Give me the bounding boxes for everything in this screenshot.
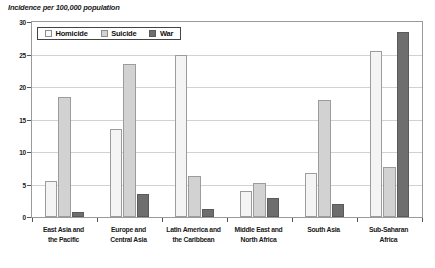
bar-war[interactable]: [202, 209, 215, 217]
x-axis-label-line: the Pacific: [31, 235, 96, 245]
x-axis-label-line: the Caribbean: [161, 235, 226, 245]
bar-homicide[interactable]: [370, 51, 383, 217]
x-axis-label-line: South Asia: [291, 225, 356, 235]
legend-swatch-suicide-icon: [101, 30, 108, 37]
bar-suicide[interactable]: [123, 64, 136, 217]
x-axis-category-label: East Asia andthe Pacific: [31, 225, 96, 244]
x-axis-tick-mark: [97, 218, 98, 222]
bar-war[interactable]: [72, 212, 85, 217]
bar-group: [110, 22, 150, 217]
x-axis-label-line: Central Asia: [96, 235, 161, 245]
x-axis-label-line: Europe and: [96, 225, 161, 235]
x-axis-tick-mark: [162, 218, 163, 222]
bar-war[interactable]: [397, 32, 410, 217]
bar-war[interactable]: [267, 198, 280, 218]
bar-war[interactable]: [137, 194, 150, 217]
bar-homicide[interactable]: [240, 191, 253, 217]
bar-suicide[interactable]: [318, 100, 331, 217]
y-axis-tick-label: 15: [19, 116, 26, 123]
bar-suicide[interactable]: [253, 183, 266, 217]
legend-label: Homicide: [56, 29, 88, 38]
x-axis-category-label: Europe andCentral Asia: [96, 225, 161, 244]
bar-homicide[interactable]: [305, 173, 318, 217]
bar-suicide[interactable]: [188, 176, 201, 217]
bar-group: [240, 22, 280, 217]
bar-group: [175, 22, 215, 217]
legend-label: Suicide: [111, 29, 136, 38]
legend-item-homicide[interactable]: Homicide: [45, 29, 88, 38]
x-axis-tick-mark: [227, 218, 228, 222]
bar-homicide[interactable]: [110, 129, 123, 217]
bar-war[interactable]: [332, 204, 345, 217]
y-axis-tick-label: 20: [19, 84, 26, 91]
legend-item-war[interactable]: War: [149, 29, 173, 38]
chart-title: Incidence per 100,000 population: [8, 3, 120, 12]
y-axis-tick-label: 5: [23, 181, 26, 188]
bars-layer: [32, 22, 422, 217]
x-axis-label-line: East Asia and: [31, 225, 96, 235]
legend-swatch-homicide-icon: [45, 30, 52, 37]
bar-homicide[interactable]: [45, 181, 58, 217]
x-axis-label-line: Sub-Saharan: [356, 225, 421, 235]
y-axis-tick-label: 30: [19, 19, 26, 26]
legend-label: War: [160, 29, 173, 38]
bar-homicide[interactable]: [175, 55, 188, 218]
bar-group: [305, 22, 345, 217]
x-axis-label-line: Latin America and: [161, 225, 226, 235]
y-axis-tick-label: 25: [19, 51, 26, 58]
x-axis-label-line: North Africa: [226, 235, 291, 245]
y-axis: 051015202530: [0, 21, 31, 219]
x-axis-label-line: Africa: [356, 235, 421, 245]
legend-swatch-war-icon: [149, 30, 156, 37]
y-axis-tick-label: 10: [19, 149, 26, 156]
bar-suicide[interactable]: [58, 97, 71, 217]
x-axis-category-label: Middle East andNorth Africa: [226, 225, 291, 244]
x-axis-tick-mark: [32, 218, 33, 222]
x-axis-category-label: Latin America andthe Caribbean: [161, 225, 226, 244]
x-axis-tick-mark: [357, 218, 358, 222]
chart-legend: HomicideSuicideWar: [37, 27, 181, 40]
bar-suicide[interactable]: [383, 167, 396, 217]
x-axis-tick-mark: [292, 218, 293, 222]
x-axis: East Asia andthe PacificEurope andCentra…: [31, 218, 423, 268]
x-axis-category-label: Sub-SaharanAfrica: [356, 225, 421, 244]
bar-group: [45, 22, 85, 217]
x-axis-label-line: Middle East and: [226, 225, 291, 235]
y-axis-tick-label: 0: [23, 214, 26, 221]
chart-container: Incidence per 100,000 population 0510152…: [0, 0, 435, 268]
bar-group: [370, 22, 410, 217]
x-axis-category-label: South Asia: [291, 225, 356, 235]
legend-item-suicide[interactable]: Suicide: [101, 29, 137, 38]
x-axis-tick-mark: [422, 218, 423, 222]
